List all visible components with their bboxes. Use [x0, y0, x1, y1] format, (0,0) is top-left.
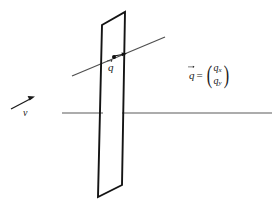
equation-component-y-subscript: y: [218, 79, 221, 87]
equation-component-y: qy: [213, 75, 221, 88]
equation-lhs-letter: q: [189, 69, 195, 81]
diagram-vector-graphics: [0, 0, 275, 216]
slanted-line: [72, 37, 165, 76]
v-vector-label: v: [23, 108, 27, 118]
equation-component-x: qx: [213, 62, 221, 75]
vector-equation: q = ( qx qy ): [189, 62, 230, 87]
equation-paren-close: ): [223, 64, 228, 85]
equation-paren-open: (: [206, 64, 211, 85]
equation-lhs-q-vector: q: [189, 69, 196, 81]
equation-column-vector: qx qy: [213, 62, 221, 87]
equation-component-x-subscript: x: [218, 66, 221, 74]
plane-parallelogram: [98, 12, 125, 197]
q-vector-letter: q: [108, 61, 114, 73]
equation-equals-sign: =: [196, 69, 205, 81]
v-vector-arrow-shaft: [11, 98, 32, 109]
q-vector-glyph: q: [108, 62, 114, 73]
q-vector-label: q: [108, 62, 114, 73]
figure-canvas: q v q = ( qx qy ): [0, 0, 275, 216]
